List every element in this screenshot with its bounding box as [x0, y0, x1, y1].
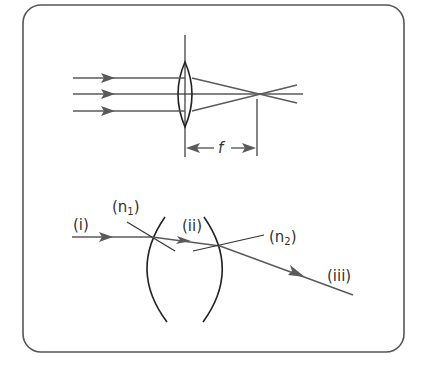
label-normal-2: (n2) — [269, 228, 297, 247]
label-emergent-ray: (iii) — [327, 267, 351, 285]
figure: f (i) (n1) (ii) (n2) (iii) — [0, 0, 432, 372]
figure-frame — [23, 5, 404, 352]
label-normal-2-open: (n — [269, 228, 284, 246]
label-incident-ray: (i) — [73, 216, 89, 234]
top-diagram: f — [73, 35, 303, 157]
label-normal-1-close: ) — [134, 198, 140, 216]
bottom-diagram: (i) (n1) (ii) (n2) (iii) — [72, 198, 353, 322]
label-normal-1-open: (n — [112, 198, 127, 216]
focal-length-label: f — [218, 139, 226, 157]
lens-right-surface — [203, 217, 222, 322]
label-internal-ray: (ii) — [182, 217, 202, 235]
refracted-ray-top — [192, 78, 297, 103]
arrow-icon — [288, 265, 305, 277]
label-normal-2-close: ) — [291, 228, 297, 246]
figure-svg: f (i) (n1) (ii) (n2) (iii) — [0, 0, 432, 372]
refracted-ray-bottom — [192, 85, 297, 111]
label-normal-1: (n1) — [112, 198, 140, 217]
lens-left-surface — [147, 217, 167, 322]
